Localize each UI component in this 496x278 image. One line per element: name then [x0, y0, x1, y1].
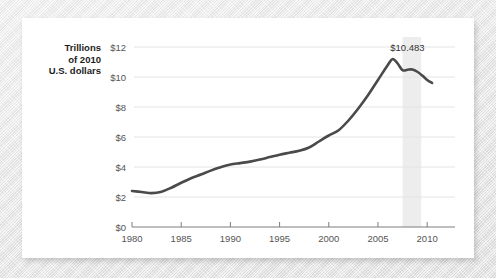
x-axis-tick-label: 1990	[220, 233, 241, 244]
y-axis-tick-label: $4	[115, 162, 126, 173]
data-series-line	[132, 59, 432, 193]
chart-shaded-regions	[403, 37, 422, 227]
x-axis-tick-label: 2010	[417, 233, 438, 244]
y-axis-tick-label: $2	[115, 192, 126, 203]
y-axis-tick-label: $6	[115, 132, 126, 143]
figure-card: $0$2$4$6$8$10$12 19801985199019952000200…	[22, 18, 474, 258]
x-axis-tick-label: 1980	[121, 233, 142, 244]
x-axis-tick-label: 1985	[171, 233, 192, 244]
y-axis-tick-label: $8	[115, 102, 126, 113]
x-axis-tick-label: 1995	[269, 233, 290, 244]
y-axis-title-line: U.S. dollars	[49, 65, 101, 76]
recession-band	[403, 37, 422, 227]
chart-data-series	[132, 59, 432, 193]
y-axis-tick-label: $12	[110, 42, 126, 53]
chart-y-axis-title: Trillionsof 2010U.S. dollars	[49, 42, 101, 76]
chart-x-axis-tick-labels: 1980198519901995200020052010	[121, 233, 437, 244]
chart-point-annotations: $10.483	[390, 42, 424, 53]
y-axis-tick-label: $10	[110, 72, 126, 83]
x-axis-tick-label: 2000	[318, 233, 339, 244]
line-chart: $0$2$4$6$8$10$12 19801985199019952000200…	[22, 18, 474, 258]
y-axis-tick-label: $0	[115, 222, 126, 233]
data-point-annotation: $10.483	[390, 42, 424, 53]
y-axis-title-line: of 2010	[68, 54, 101, 65]
chart-y-axis-tick-labels: $0$2$4$6$8$10$12	[110, 42, 126, 233]
x-axis-tick-label: 2005	[367, 233, 388, 244]
y-axis-title-line: Trillions	[65, 42, 101, 53]
